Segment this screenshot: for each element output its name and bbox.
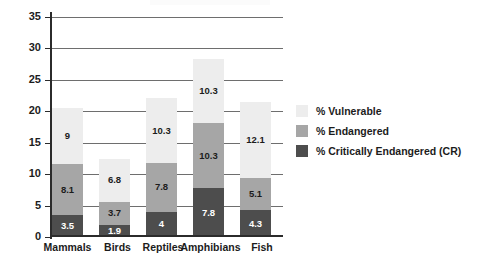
- bar-amphibians[interactable]: 10.3 10.3 7.8: [193, 59, 224, 238]
- y-tick-label-5: 5: [0, 200, 41, 211]
- bar-value-label: 5.1: [249, 189, 262, 199]
- plot-area: 9 8.1 3.5 6.8 3.7 1.9 10.3: [52, 17, 283, 237]
- bar-value-label: 1.9: [108, 226, 121, 236]
- bar-value-label: 3.5: [61, 221, 74, 231]
- bar-segment-endangered[interactable]: 8.1: [52, 164, 83, 215]
- x-axis-line: [52, 235, 283, 237]
- y-tick-label-10: 10: [0, 168, 41, 179]
- legend-item-vulnerable[interactable]: % Vulnerable: [296, 101, 461, 121]
- bar-birds[interactable]: 6.8 3.7 1.9: [99, 159, 130, 237]
- legend-swatch-icon: [296, 125, 308, 137]
- bar-segment-vulnerable[interactable]: 12.1: [240, 102, 271, 178]
- bar-segment-vulnerable[interactable]: 10.3: [193, 59, 224, 124]
- gridline-25: [52, 80, 283, 81]
- bar-segment-critical[interactable]: 4: [146, 212, 177, 237]
- bar-segment-vulnerable[interactable]: 10.3: [146, 98, 177, 163]
- bar-value-label: 10.3: [152, 126, 171, 136]
- chart-legend: % Vulnerable % Endangered % Critically E…: [296, 101, 461, 161]
- legend-item-critically-endangered[interactable]: % Critically Endangered (CR): [296, 141, 461, 161]
- bar-segment-vulnerable[interactable]: 9: [52, 108, 83, 165]
- bar-segment-critical[interactable]: 3.5: [52, 215, 83, 237]
- bar-value-label: 9: [65, 131, 70, 141]
- bar-value-label: 8.1: [61, 185, 74, 195]
- bar-value-label: 4: [159, 219, 164, 229]
- legend-label: % Endangered: [316, 125, 389, 137]
- bar-segment-critical[interactable]: 7.8: [193, 188, 224, 237]
- bar-segment-endangered[interactable]: 3.7: [99, 202, 130, 225]
- bar-segment-endangered[interactable]: 10.3: [193, 123, 224, 188]
- bar-segment-critical[interactable]: 4.3: [240, 210, 271, 237]
- bar-segment-endangered[interactable]: 5.1: [240, 178, 271, 210]
- bar-value-label: 3.7: [108, 208, 121, 218]
- bar-value-label: 7.8: [202, 208, 215, 218]
- bar-value-label: 6.8: [108, 175, 121, 185]
- legend-label: % Critically Endangered (CR): [316, 145, 461, 157]
- bar-value-label: 12.1: [246, 135, 265, 145]
- bar-segment-endangered[interactable]: 7.8: [146, 163, 177, 212]
- bar-reptiles[interactable]: 10.3 7.8 4: [146, 98, 177, 237]
- legend-swatch-icon: [296, 145, 308, 157]
- bar-mammals[interactable]: 9 8.1 3.5: [52, 108, 83, 238]
- y-tick-label-25: 25: [0, 74, 41, 85]
- stacked-bar-chart: 35 30 25 20 15 10 5 0 9 8.1: [0, 0, 478, 258]
- y-tick-label-35: 35: [0, 11, 41, 22]
- legend-item-endangered[interactable]: % Endangered: [296, 121, 461, 141]
- y-tick-label-15: 15: [0, 137, 41, 148]
- gridline-30: [52, 48, 283, 49]
- bar-value-label: 4.3: [249, 219, 262, 229]
- scan-artifact: [150, 0, 270, 5]
- bar-value-label: 7.8: [155, 182, 168, 192]
- gridline-35: [52, 17, 283, 18]
- y-tick-label-20: 20: [0, 105, 41, 116]
- y-tick-label-30: 30: [0, 42, 41, 53]
- bar-segment-vulnerable[interactable]: 6.8: [99, 159, 130, 202]
- bar-fish[interactable]: 12.1 5.1 4.3: [240, 102, 271, 237]
- legend-label: % Vulnerable: [316, 105, 382, 117]
- bar-value-label: 10.3: [199, 86, 218, 96]
- category-label-fish: Fish: [227, 241, 297, 253]
- bar-value-label: 10.3: [199, 151, 218, 161]
- legend-swatch-icon: [296, 105, 308, 117]
